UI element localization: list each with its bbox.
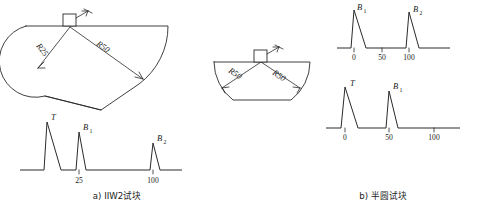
iiw2-block-inner-edge <box>45 96 101 110</box>
semicircle-top-tick-label-100: 100 <box>403 53 415 62</box>
semicircle-bottom-tick-label-100: 100 <box>428 133 440 142</box>
semicircle-block-outline <box>214 62 310 100</box>
panel-b-caption: b) 半圆试块 <box>359 190 407 201</box>
iiw2-probe <box>63 9 92 26</box>
iiw2-tick-label-25: 25 <box>75 176 83 185</box>
iiw2-peak-label-T: T <box>51 112 57 122</box>
semicircle-top-peak-label-B1-base: B <box>357 2 362 12</box>
r50-label: R50 <box>94 38 112 55</box>
iiw2-waveform-trace <box>20 122 182 170</box>
iiw2-peak-label-B1-base: B <box>83 122 88 132</box>
ultrasonic-calibration-figure: R25 R50 25 100 <box>0 0 477 213</box>
semicircle-top-peak-label-B2: B 2 <box>413 4 423 16</box>
semicircle-bottom-peak-label-B1-base: B <box>393 81 398 91</box>
panel-b-semicircle-block: R50 R50 <box>214 45 310 100</box>
probe-housing-icon <box>254 50 267 62</box>
panel-a-iiw2-block: R25 R50 <box>0 9 168 110</box>
semicircle-bottom-peak-label-B1-sub: 1 <box>400 87 403 93</box>
probe-housing-icon <box>63 14 76 26</box>
iiw2-peak-label-B2: B 2 <box>157 133 167 145</box>
iiw2-peak-label-B1: B 1 <box>83 122 93 134</box>
iiw2-peak-label-B2-base: B <box>157 133 162 143</box>
semicircle-r50-right-dimension: R50 <box>261 62 300 93</box>
semicircle-top-peak-label-B2-base: B <box>413 4 418 14</box>
chart-iiw2-ascan: 25 100 T B 1 B 2 <box>20 112 182 185</box>
panel-a-caption: a) IIW2试块 <box>93 190 141 201</box>
iiw2-block-outline <box>0 26 168 110</box>
semicircle-bottom-tick-label-0: 0 <box>343 133 347 142</box>
semicircle-top-peak-label-B2-sub: 2 <box>420 10 423 16</box>
semicircle-top-waveform-trace <box>337 10 450 48</box>
iiw2-peak-label-B1-sub: 1 <box>90 128 93 134</box>
r50-left-label: R50 <box>226 65 244 82</box>
figure-canvas: R25 R50 25 100 <box>0 0 477 213</box>
semicircle-r50-left-dimension: R50 <box>222 62 261 93</box>
chart-semicircle-ascan-top: 0 50 100 B 1 B 2 <box>337 2 450 62</box>
r50-right-label: R50 <box>270 67 288 84</box>
semicircle-top-tick-label-50: 50 <box>378 53 386 62</box>
chart-semicircle-ascan-bottom: 0 50 100 T B 1 <box>326 78 460 142</box>
semicircle-bottom-tick-label-50: 50 <box>385 133 393 142</box>
iiw2-peak-label-B2-sub: 2 <box>164 139 167 145</box>
semicircle-top-peak-label-B1: B 1 <box>357 2 367 14</box>
r50-left-arrowhead <box>222 87 229 93</box>
semicircle-top-peak-label-B1-sub: 1 <box>364 8 367 14</box>
semicircle-top-tick-label-0: 0 <box>352 53 356 62</box>
semicircle-bottom-peak-label-B1: B 1 <box>393 81 403 93</box>
iiw2-r50-dimension: R50 <box>70 27 143 79</box>
iiw2-r25-dimension: R25 <box>34 27 70 68</box>
semicircle-bottom-peak-label-T: T <box>350 78 356 88</box>
iiw2-tick-label-100: 100 <box>147 176 159 185</box>
semicircle-probe <box>254 45 283 62</box>
semicircle-bottom-waveform-trace <box>326 87 460 128</box>
